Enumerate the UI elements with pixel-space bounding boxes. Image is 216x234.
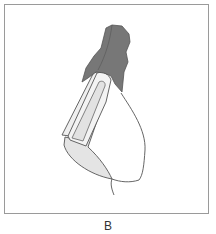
crown-outline: [112, 93, 145, 182]
root-line: [111, 179, 114, 195]
tooth-illustration: [0, 0, 216, 234]
figure-caption: B: [0, 219, 216, 233]
